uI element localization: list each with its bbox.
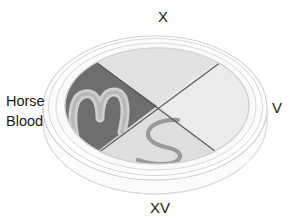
diagram-canvas: X V XV Horse Blood: [0, 0, 293, 223]
label-left-horse: Horse: [6, 93, 45, 109]
label-top-x: X: [158, 8, 168, 25]
label-left-blood: Blood: [6, 113, 43, 129]
label-right-v: V: [272, 99, 282, 116]
petri-dish-figure: X V XV Horse Blood: [0, 0, 293, 223]
label-bottom-xv: XV: [150, 199, 170, 216]
